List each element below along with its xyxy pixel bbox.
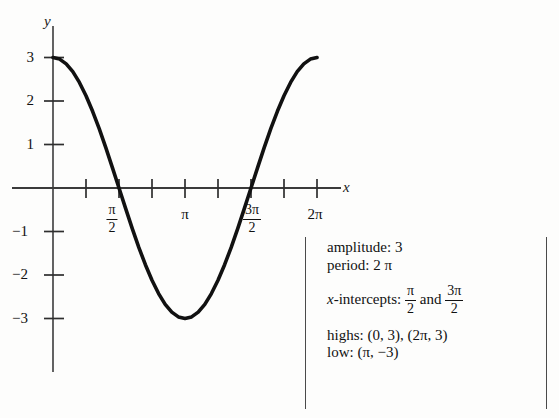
cosine-graph-figure: y x 3 2 1 −1 −2 −3 π 2 π 3π 2 2π	[0, 0, 559, 418]
amplitude-row: amplitude: 3	[327, 239, 542, 257]
fraction-numerator: π	[405, 284, 416, 301]
fraction-denominator: 2	[243, 220, 261, 236]
panel-right-rule	[546, 237, 547, 409]
fraction-denominator: 2	[405, 301, 416, 317]
highs-row: highs: (0, 3), (2π, 3)	[327, 327, 542, 345]
x-tick-label-3pi-over-2: 3π 2	[243, 203, 261, 235]
period-value: 2 π	[373, 257, 392, 273]
period-row: period: 2 π	[327, 257, 542, 275]
y-tick-label-neg2: −2	[2, 267, 28, 282]
fraction-numerator: 3π	[445, 284, 463, 301]
properties-panel: amplitude: 3 period: 2 π x-intercepts: π…	[305, 237, 548, 409]
fraction-numerator: π	[106, 203, 117, 220]
conjunction-and: and	[420, 291, 442, 307]
fraction-denominator: 2	[106, 220, 117, 236]
y-tick-label-neg3: −3	[2, 311, 28, 326]
y-axis-label: y	[44, 14, 51, 29]
pi-symbol: π	[181, 203, 189, 222]
low-row: low: (π, −3)	[327, 344, 542, 362]
x-tick-label-2pi: 2π	[307, 203, 322, 222]
x-axis-label: x	[343, 180, 350, 195]
properties-list: amplitude: 3 period: 2 π x-intercepts: π…	[327, 239, 542, 362]
x-intercepts-row: x-intercepts: π 2 and 3π 2	[327, 284, 542, 316]
period-label: period:	[327, 257, 370, 273]
amplitude-value: 3	[395, 239, 403, 255]
low-value: (π, −3)	[357, 344, 398, 360]
x-tick-label-pi: π	[181, 203, 189, 222]
highs-label: highs:	[327, 327, 364, 343]
fraction-denominator: 2	[445, 301, 463, 317]
fraction-3pi-over-2: 3π 2	[243, 203, 261, 235]
fraction-3pi-over-2: 3π 2	[445, 284, 463, 316]
y-tick-label-2: 2	[8, 93, 34, 108]
y-tick-label-1: 1	[8, 137, 34, 152]
x-intercepts-label-rest: -intercepts:	[334, 291, 401, 307]
fraction-pi-over-2: π 2	[106, 203, 117, 235]
fraction-numerator: 3π	[243, 203, 261, 220]
low-label: low:	[327, 344, 354, 360]
x-intercepts-label-italic: x	[327, 291, 334, 307]
fraction-pi-over-2: π 2	[405, 284, 416, 316]
amplitude-label: amplitude:	[327, 239, 391, 255]
panel-left-rule	[305, 237, 306, 409]
y-tick-label-neg1: −1	[2, 224, 28, 239]
x-tick-label-pi-over-2: π 2	[106, 203, 117, 235]
two-pi-symbol: 2π	[307, 203, 322, 222]
highs-value: (0, 3), (2π, 3)	[367, 327, 447, 343]
y-tick-label-3: 3	[8, 50, 34, 65]
